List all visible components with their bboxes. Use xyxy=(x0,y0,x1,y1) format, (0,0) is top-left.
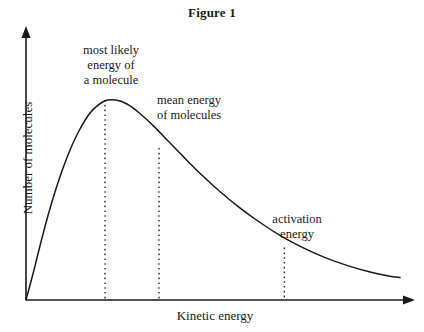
annotation-line: a molecule xyxy=(57,73,165,88)
figure-container: Figure 1 most likely energy of a molecul… xyxy=(0,0,424,332)
x-axis-label: Kinetic energy xyxy=(140,308,290,324)
y-axis-arrow-icon xyxy=(22,26,31,38)
annotation-most-likely-energy: most likely energy of a molecule xyxy=(57,43,165,88)
x-axis-arrow-icon xyxy=(403,296,415,305)
annotation-mean-energy: mean energy of molecules xyxy=(133,93,245,123)
annotation-line: mean energy xyxy=(133,93,245,108)
annotation-line: energy xyxy=(249,227,345,242)
annotation-line: energy of xyxy=(57,58,165,73)
y-axis-label: Number of molecules xyxy=(20,68,36,248)
annotation-activation-energy: activation energy xyxy=(249,212,345,242)
annotation-line: activation xyxy=(249,212,345,227)
annotation-line: most likely xyxy=(57,43,165,58)
maxwell-boltzmann-curve xyxy=(26,100,400,300)
annotation-line: of molecules xyxy=(133,108,245,123)
